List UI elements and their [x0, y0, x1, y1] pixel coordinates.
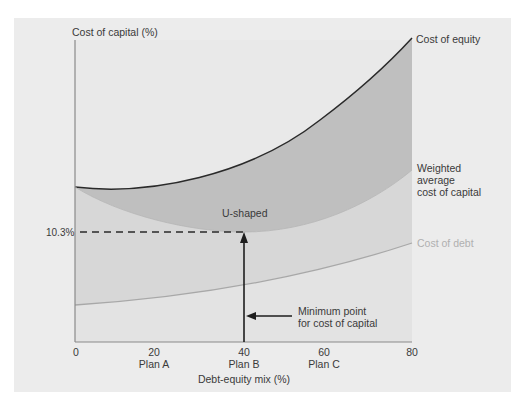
x-tick-80: 80 — [406, 346, 418, 358]
chart-svg: Cost of capital (%) Cost of equity Weigh… — [0, 0, 526, 404]
plan-b-label: Plan B — [229, 358, 260, 370]
x-tick-60: 60 — [318, 346, 330, 358]
cost-of-debt-label: Cost of debt — [417, 237, 474, 249]
y-axis-title: Cost of capital (%) — [72, 26, 158, 38]
plan-c-label: Plan C — [308, 358, 340, 370]
y-marker-label: 10.3% — [46, 227, 74, 238]
chart-container: Cost of capital (%) Cost of equity Weigh… — [0, 0, 526, 404]
wacc-label-line2: average — [417, 174, 455, 186]
wacc-label-line1: Weighted — [417, 162, 461, 174]
min-point-label-line2: for cost of capital — [298, 317, 377, 329]
x-tick-0: 0 — [73, 346, 79, 358]
plan-a-label: Plan A — [139, 358, 169, 370]
wacc-label-line3: cost of capital — [417, 186, 481, 198]
x-axis-title: Debt-equity mix (%) — [198, 373, 290, 385]
cost-of-equity-label: Cost of equity — [416, 33, 481, 45]
x-tick-20: 20 — [148, 346, 160, 358]
min-point-label-line1: Minimum point — [298, 305, 366, 317]
u-shaped-label: U-shaped — [222, 207, 268, 219]
x-tick-40: 40 — [238, 346, 250, 358]
